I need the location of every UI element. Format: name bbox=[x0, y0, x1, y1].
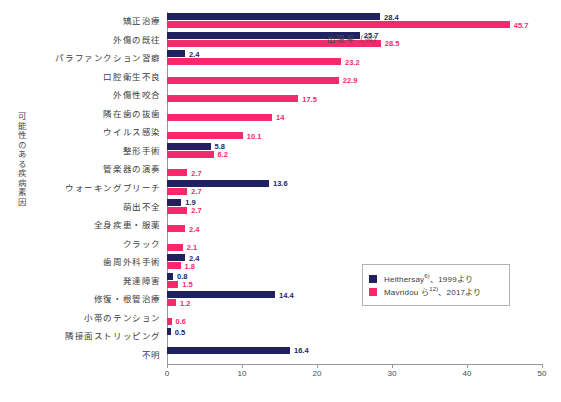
bar[interactable] bbox=[167, 13, 380, 20]
legend-label-main: Heithersay bbox=[384, 275, 424, 284]
bar[interactable] bbox=[167, 58, 341, 65]
bar-slot: 16.4 bbox=[167, 347, 542, 354]
x-tick-label: 10 bbox=[238, 369, 247, 378]
category-label: 隣在歯の抜歯 bbox=[103, 108, 161, 119]
category-label: 整形手術 bbox=[123, 145, 161, 156]
legend-label: Heithersay6)、1999より bbox=[384, 273, 473, 284]
bar-pair: 2.4 bbox=[167, 217, 542, 233]
bar[interactable] bbox=[167, 180, 269, 187]
bar-slot bbox=[167, 87, 542, 94]
bar-slot: 10.1 bbox=[167, 132, 542, 139]
bar-pair: 1.92.7 bbox=[167, 199, 542, 215]
bar[interactable] bbox=[167, 262, 181, 269]
legend-label: Mavridou ら12)、2017より bbox=[384, 286, 482, 297]
legend-label-tail: 、2017より bbox=[438, 288, 481, 297]
bar[interactable] bbox=[167, 328, 171, 335]
bar-pair: 22.9 bbox=[167, 69, 542, 85]
bar[interactable] bbox=[167, 132, 243, 139]
bar[interactable] bbox=[167, 291, 275, 298]
bar-slot bbox=[167, 69, 542, 76]
bar-row: 口腔衛生不良22.9 bbox=[167, 68, 542, 87]
bar-value-label: 2.1 bbox=[187, 243, 197, 252]
chart-container: 可能性のある疾病素因 矯正治療28.445.7外傷の既往25.728.5パラファ… bbox=[0, 0, 561, 402]
bar[interactable] bbox=[167, 225, 185, 232]
bar[interactable] bbox=[167, 299, 176, 306]
bar[interactable] bbox=[167, 347, 290, 354]
bar-row: 全身疾患・服薬2.4 bbox=[167, 216, 542, 235]
bar[interactable] bbox=[167, 50, 185, 57]
x-tick-mark bbox=[242, 364, 243, 368]
bar-slot bbox=[167, 161, 542, 168]
bar-slot: 2.7 bbox=[167, 188, 542, 195]
y-axis-title: 可能性のある疾病素因 bbox=[10, 112, 26, 207]
bar[interactable] bbox=[167, 169, 187, 176]
plot-area: 矯正治療28.445.7外傷の既往25.728.5パラファンクション習癖2.42… bbox=[167, 12, 542, 364]
x-tick-mark bbox=[167, 364, 168, 368]
bar[interactable] bbox=[167, 95, 298, 102]
bar-row: 不明16.4 bbox=[167, 345, 542, 364]
category-label: パラファンクション習癖 bbox=[55, 53, 161, 64]
legend-swatch bbox=[369, 288, 377, 296]
bar[interactable] bbox=[167, 318, 172, 325]
bar-slot: 22.9 bbox=[167, 77, 542, 84]
bar-slot: 0.6 bbox=[167, 318, 542, 325]
bar-slot bbox=[167, 106, 542, 113]
bar-pair: 13.62.7 bbox=[167, 180, 542, 196]
bar-slot: 13.6 bbox=[167, 180, 542, 187]
bar-value-label: 1.2 bbox=[180, 298, 190, 307]
bar-pair: 14 bbox=[167, 106, 542, 122]
x-axis-title: 出現率（%） bbox=[167, 32, 542, 44]
bar-row: 小帯のテンション0.6 bbox=[167, 308, 542, 327]
bar-slot: 2.4 bbox=[167, 50, 542, 57]
bar[interactable] bbox=[167, 281, 178, 288]
bar-slot bbox=[167, 355, 542, 362]
bar[interactable] bbox=[167, 199, 181, 206]
bar-row: 外傷性咬合17.5 bbox=[167, 86, 542, 105]
bar[interactable] bbox=[167, 151, 214, 158]
bar-slot: 23.2 bbox=[167, 58, 542, 65]
category-label: 小帯のテンション bbox=[84, 312, 161, 323]
bar[interactable] bbox=[167, 77, 339, 84]
bar-value-label: 1.5 bbox=[182, 280, 192, 289]
category-label: ウォーキングブリーチ bbox=[65, 182, 161, 193]
bar[interactable] bbox=[167, 188, 187, 195]
bar[interactable] bbox=[167, 254, 185, 261]
bar-row: パラファンクション習癖2.423.2 bbox=[167, 49, 542, 68]
legend-label-superscript: 12) bbox=[429, 286, 438, 292]
bar-slot: 0.5 bbox=[167, 328, 542, 335]
bar[interactable] bbox=[167, 244, 183, 251]
bar-slot: 2.7 bbox=[167, 207, 542, 214]
bar[interactable] bbox=[167, 143, 211, 150]
bar-slot bbox=[167, 310, 542, 317]
bar-row: 隣在歯の抜歯14 bbox=[167, 105, 542, 124]
bar-slot: 17.5 bbox=[167, 95, 542, 102]
bar-pair: 28.445.7 bbox=[167, 13, 542, 29]
x-axis-ticks: 01020304050 bbox=[167, 364, 542, 384]
x-tick-label: 50 bbox=[538, 369, 547, 378]
x-tick-label: 0 bbox=[165, 369, 169, 378]
bar-rows: 矯正治療28.445.7外傷の既往25.728.5パラファンクション習癖2.42… bbox=[167, 12, 542, 364]
bar-value-label: 2.7 bbox=[191, 168, 201, 177]
category-label: 萌出不全 bbox=[123, 201, 161, 212]
bar[interactable] bbox=[167, 114, 272, 121]
bar-pair: 2.1 bbox=[167, 236, 542, 252]
category-label: 不明 bbox=[142, 349, 161, 360]
bar-row: 隣接面ストリッピング0.5 bbox=[167, 327, 542, 346]
bar-row: 矯正治療28.445.7 bbox=[167, 12, 542, 31]
legend-item[interactable]: Mavridou ら12)、2017より bbox=[369, 286, 502, 297]
bar-value-label: 0.5 bbox=[175, 327, 185, 336]
bar-value-label: 10.1 bbox=[247, 131, 262, 140]
bar[interactable] bbox=[167, 273, 173, 280]
bar-row: ウイルス感染10.1 bbox=[167, 123, 542, 142]
bar-slot: 45.7 bbox=[167, 21, 542, 28]
bar-pair: 0.6 bbox=[167, 310, 542, 326]
bar[interactable] bbox=[167, 207, 187, 214]
category-label: 口腔衛生不良 bbox=[103, 71, 161, 82]
bar-pair: 5.86.2 bbox=[167, 143, 542, 159]
bar-pair: 2.423.2 bbox=[167, 50, 542, 66]
bar-pair: 0.5 bbox=[167, 328, 542, 344]
bar-value-label: 0.6 bbox=[176, 317, 186, 326]
category-label: 矯正治療 bbox=[123, 16, 161, 27]
legend-item[interactable]: Heithersay6)、1999より bbox=[369, 273, 502, 284]
bar[interactable] bbox=[167, 21, 510, 28]
